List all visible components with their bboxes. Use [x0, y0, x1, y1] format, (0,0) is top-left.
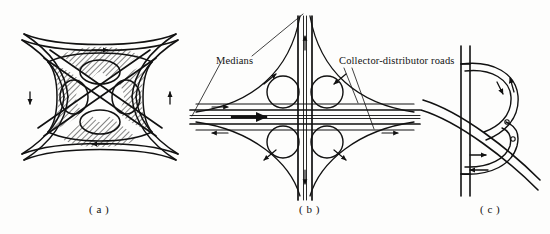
caption-panel-a: ( a ): [89, 203, 109, 215]
label-medians: Medians: [216, 55, 253, 66]
panel-a-scallop-s: [24, 150, 176, 161]
panel-c-gore-nose-lower: [511, 137, 515, 141]
caption-panel-b: ( b ): [299, 203, 320, 215]
panel-b-cloverleaf: [190, 14, 420, 200]
panel-c-partial-cloverleaf: [421, 46, 540, 196]
cd-leader-lower: [352, 68, 374, 129]
panel-c-diagonal-edge-lower: [421, 110, 538, 190]
panel-b-loop-nw: [267, 76, 299, 108]
label-collector-distributor-roads: Collector-distributor roads: [339, 55, 455, 66]
panel-c-loop-upper-inner: [465, 71, 511, 132]
panel-c-diagonal-edge-upper: [423, 100, 540, 180]
panel-a-scallop-n: [24, 34, 176, 45]
caption-panel-c: ( c ): [480, 203, 500, 215]
cd-leader-upper: [344, 68, 358, 103]
interchange-figure: Medians Collector-distributor roads ( a …: [0, 0, 550, 234]
panel-a-cloverleaf: [22, 34, 178, 160]
figure-linework: [0, 0, 550, 234]
